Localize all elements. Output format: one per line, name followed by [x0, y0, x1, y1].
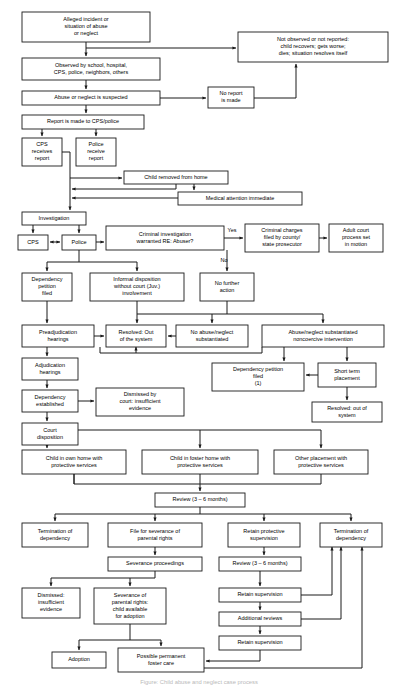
node-n2: Not observed or not reported:child recov…	[238, 32, 388, 62]
node-n10: Medical attention immediate	[178, 192, 302, 205]
figure-caption: Figure: Child abuse and neglect case pro…	[140, 679, 258, 685]
node-label: Adult court	[343, 227, 370, 233]
node-n15: Criminal chargesfiled by county/state pr…	[245, 224, 319, 252]
node-label: Review (3 – 6 months)	[232, 560, 287, 566]
node-n42: Severance ofparental rights:child availa…	[94, 588, 166, 624]
node-label: involvement	[122, 290, 152, 296]
node-label: No further	[215, 280, 240, 286]
connectors	[33, 42, 362, 668]
node-n41: Dismissed:insufficientevidence	[22, 588, 80, 618]
node-n35: Termination ofdependency	[22, 523, 88, 547]
node-n13: Police	[62, 235, 96, 250]
node-label: substantiated	[196, 336, 229, 342]
node-label: Termination of	[38, 528, 73, 534]
edge-label-lbl_yes: Yes	[228, 227, 237, 233]
edge-courtdisp-to-fosterhome	[78, 430, 200, 448]
node-n8: Policereceivereport	[76, 138, 116, 166]
node-n18: Dependencypetitionfiled	[22, 273, 72, 301]
node-n21: Resolved: Outof the system	[106, 325, 166, 347]
node-label: state prosecutor	[262, 241, 302, 247]
node-label: CPS	[27, 239, 39, 245]
node-label: Adoption	[68, 656, 90, 662]
node-label: Medical attention immediate	[206, 195, 274, 201]
node-label: Abuse/neglect substantiated	[288, 329, 357, 335]
node-label: action	[220, 287, 235, 293]
node-n1: Alleged incident orsituation of abuseor …	[22, 12, 150, 42]
node-n28: Dismissed bycourt: insufficientevidence	[96, 388, 184, 416]
node-label: child available	[113, 606, 148, 612]
node-label: hearings	[39, 369, 60, 375]
node-label: Not observed or not reported:	[277, 36, 349, 42]
node-label: parental rights:	[112, 599, 149, 605]
node-label: Police	[72, 239, 87, 245]
node-label: protective services	[298, 462, 344, 468]
node-label: receives	[32, 148, 53, 154]
node-n40: Review (3 – 6 months)	[219, 557, 301, 571]
edge-placements-bus	[74, 474, 321, 484]
node-n45: Retain supervision	[219, 636, 301, 650]
node-label: child recovers; gets worse;	[280, 43, 346, 49]
node-label: evidence	[40, 606, 62, 612]
node-label: Retain protective	[243, 528, 284, 534]
edge-retainsup1-to-termination2	[301, 547, 332, 595]
node-label: Alleged incident or	[63, 16, 108, 22]
node-n9: Child removed from home	[124, 171, 228, 184]
node-label: Investigation	[39, 215, 70, 221]
node-label: filed	[42, 290, 52, 296]
node-n5: No reportis made	[208, 87, 254, 108]
node-label: File for severance of	[130, 528, 180, 534]
node-label: protective services	[51, 462, 97, 468]
node-n19: Informal dispositionwithout court (Juv.)…	[90, 273, 184, 301]
node-label: or neglect	[74, 30, 99, 36]
node-label: supervision	[250, 535, 278, 541]
edge-spine-to-investigation	[62, 152, 70, 210]
node-n30: Courtdisposition	[22, 423, 78, 445]
node-label: Retain supervision	[237, 639, 282, 645]
node-n11: Investigation	[22, 212, 86, 225]
node-label: Dismissed by	[124, 391, 157, 397]
node-n36: File for severance ofparental rights	[108, 523, 202, 547]
node-n25: Dependency petitionfiled(1)	[212, 363, 304, 391]
node-label: of the system	[120, 336, 153, 342]
node-label: Additional reviews	[238, 615, 283, 621]
node-label: placement	[334, 375, 360, 381]
node-label: No report	[220, 90, 243, 96]
node-n17: No furtheraction	[200, 273, 254, 301]
node-n37: Retain protectivesupervision	[228, 523, 300, 547]
node-label: Child removed from home	[144, 174, 207, 180]
node-label: hearings	[47, 336, 68, 342]
node-label: Short term	[334, 368, 360, 374]
node-n20: Preadjudicationhearings	[22, 325, 94, 347]
node-label: is made	[221, 97, 240, 103]
node-label: Report is made to CPS/police	[47, 118, 119, 124]
edge-retainsup2-to-fostercare	[206, 650, 260, 661]
node-label: Dependency	[35, 394, 66, 400]
node-label: disposition	[37, 434, 63, 440]
node-label: Severance proceedings	[126, 560, 184, 566]
edge-courtdisp-to-otherplacement	[200, 430, 321, 448]
node-label: parental rights	[138, 535, 173, 541]
node-label: dies; situation resolves itself	[279, 50, 348, 56]
node-n31: Child in own home withprotective service…	[22, 450, 126, 474]
node-label: protective services	[177, 462, 223, 468]
node-label: established	[36, 401, 64, 407]
node-label: (1)	[255, 380, 262, 386]
node-n29: Resolved: out ofsystem	[312, 402, 382, 422]
node-label: evidence	[129, 405, 151, 411]
node-n16: Adult courtprocess setin motion	[329, 224, 383, 252]
node-label: Dependency	[32, 276, 63, 282]
edge-police-to-informal	[79, 262, 137, 271]
edge-label-lbl_no: No	[220, 257, 227, 263]
node-label: Criminal charges	[261, 227, 303, 233]
node-label: Resolved: out of	[327, 405, 367, 411]
node-n43: Retain supervision	[219, 588, 301, 602]
node-label: insufficient	[38, 599, 64, 605]
node-label: report	[89, 155, 104, 161]
node-label: Informal disposition	[113, 276, 160, 282]
node-label: in motion	[345, 241, 367, 247]
node-n38: Termination ofdependency	[320, 523, 382, 547]
node-label: for adoption	[115, 613, 144, 619]
node-label: Child in foster home with	[170, 455, 230, 461]
node-label: situation of abuse	[64, 23, 107, 29]
node-label: Possible permanent	[137, 653, 186, 659]
